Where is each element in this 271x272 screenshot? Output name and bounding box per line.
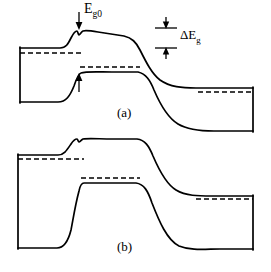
- panel-b-caption: (b): [117, 240, 132, 253]
- eg0-label-base: E: [84, 1, 93, 16]
- panel-b-valence-band-edge: [18, 183, 253, 249]
- panel-a-caption: (a): [117, 106, 131, 119]
- eg0-arrow-head-icon: [76, 22, 83, 30]
- panel-a-group: [20, 12, 253, 132]
- panel-b-group: [18, 139, 253, 250]
- valence-offset-arrow-head-icon: [76, 73, 83, 81]
- band-diagram-figure: Eg0 ΔEg (a) (b): [0, 0, 271, 272]
- eg0-label-subscript: g0: [93, 9, 103, 19]
- panel-b-conduction-band-edge: [18, 139, 253, 196]
- eg0-label: Eg0: [84, 2, 102, 19]
- panel-a-valence-band-edge: [20, 72, 253, 131]
- delta-eg-label-subscript: g: [196, 35, 200, 45]
- delta-eg-label-base: ΔE: [180, 27, 196, 42]
- panel-a-conduction-band-edge: [20, 31, 253, 88]
- delta-eg-label: ΔEg: [180, 28, 201, 44]
- band-diagram-canvas: [0, 0, 271, 272]
